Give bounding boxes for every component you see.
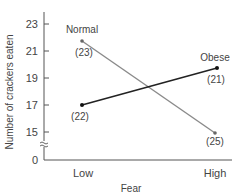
series-label-normal: Normal [66, 24, 98, 35]
normal-low-point [80, 39, 84, 43]
ytick-label-15: 15 [26, 126, 38, 138]
obese-low-n: (22) [71, 111, 89, 122]
xtick-label-high: High [204, 167, 227, 179]
x-axis-title: Fear [121, 183, 142, 194]
ytick-label-17: 17 [26, 99, 38, 111]
ytick-label-19: 19 [26, 72, 38, 84]
xtick-label-low: Low [73, 167, 93, 179]
obese-high-point [215, 66, 219, 70]
y-axis-title: Number of crackers eaten [4, 34, 15, 149]
obese-high-n: (21) [207, 74, 225, 85]
ytick-label-23: 23 [26, 18, 38, 30]
normal-high-point [213, 131, 217, 135]
ytick-label-21: 21 [26, 45, 38, 57]
line-chart: 23 21 19 17 15 0 Low High Fear Number of… [0, 0, 243, 194]
series-obese-line [82, 68, 217, 105]
ytick-label-0: 0 [32, 154, 38, 166]
obese-low-point [80, 103, 84, 107]
axis-break-icon [40, 141, 48, 147]
normal-high-n: (25) [206, 136, 224, 147]
normal-low-n: (23) [75, 47, 93, 58]
series-label-obese: Obese [200, 52, 230, 63]
